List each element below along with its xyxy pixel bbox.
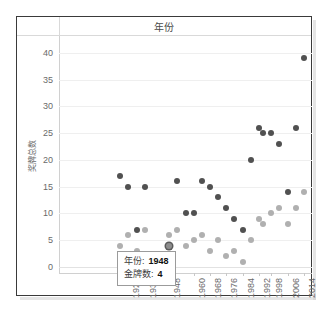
data-point[interactable] xyxy=(293,125,299,131)
data-point[interactable] xyxy=(285,189,291,195)
tooltip-year-value: 1948 xyxy=(149,256,169,266)
data-point[interactable] xyxy=(260,130,266,136)
x-tick-label: 1960 xyxy=(198,278,207,298)
x-tick-mark xyxy=(226,273,227,276)
data-point[interactable] xyxy=(260,221,266,227)
data-point[interactable] xyxy=(183,243,189,249)
x-tick-label: 1998 xyxy=(275,278,284,298)
data-point[interactable] xyxy=(240,259,246,265)
gridline xyxy=(59,240,312,241)
data-point[interactable] xyxy=(199,232,205,238)
gridline xyxy=(59,106,312,107)
widget-shadow-right xyxy=(313,20,316,300)
data-point[interactable] xyxy=(223,205,229,211)
data-point[interactable] xyxy=(231,248,237,254)
data-point[interactable] xyxy=(199,178,205,184)
data-point[interactable] xyxy=(301,189,307,195)
point-tooltip: 年份:1948 金牌数:4 xyxy=(117,251,176,286)
x-axis: 1928193619481960196819761984199219982006… xyxy=(59,273,312,297)
data-point[interactable] xyxy=(142,227,148,233)
plot-area[interactable]: 0510152025303540 xyxy=(59,36,312,273)
data-point[interactable] xyxy=(215,194,221,200)
gridline xyxy=(59,160,312,161)
data-point[interactable] xyxy=(276,141,282,147)
data-point[interactable] xyxy=(117,243,123,249)
tooltip-medal-row: 金牌数:4 xyxy=(124,268,169,281)
x-tick-mark xyxy=(271,273,272,276)
tooltip-medal-value: 4 xyxy=(158,269,163,279)
gridline xyxy=(59,187,312,188)
tooltip-medal-label: 金牌数: xyxy=(124,269,154,279)
data-point[interactable] xyxy=(268,210,274,216)
data-point[interactable] xyxy=(125,184,131,190)
y-tick-label: 30 xyxy=(43,102,53,111)
data-point[interactable] xyxy=(268,130,274,136)
data-point[interactable] xyxy=(174,178,180,184)
data-point[interactable] xyxy=(248,237,254,243)
data-point[interactable] xyxy=(285,221,291,227)
chart-title: 年份 xyxy=(17,19,311,34)
data-point[interactable] xyxy=(174,227,180,233)
data-point[interactable] xyxy=(223,253,229,259)
data-point[interactable] xyxy=(166,232,172,238)
data-point[interactable] xyxy=(293,205,299,211)
data-point[interactable] xyxy=(191,210,197,216)
data-point[interactable] xyxy=(240,227,246,233)
x-tick-mark xyxy=(304,273,305,276)
data-point[interactable] xyxy=(142,184,148,190)
x-tick-mark xyxy=(288,273,289,276)
x-tick-label: 2014 xyxy=(308,278,317,298)
data-point[interactable] xyxy=(125,232,131,238)
tooltip-year-row: 年份:1948 xyxy=(124,255,169,268)
data-point[interactable] xyxy=(207,248,213,254)
y-tick-label: 15 xyxy=(43,182,53,191)
y-tick-label: 40 xyxy=(43,48,53,57)
data-point[interactable] xyxy=(301,55,307,61)
data-point[interactable] xyxy=(191,237,197,243)
x-tick-label: 1992 xyxy=(263,278,272,298)
y-tick-label: 5 xyxy=(48,236,53,245)
x-tick-label: 1984 xyxy=(247,278,256,298)
data-point[interactable] xyxy=(231,216,237,222)
x-tick-label: 1968 xyxy=(214,278,223,298)
data-point[interactable] xyxy=(117,173,123,179)
x-axis-line xyxy=(59,273,312,274)
gridline xyxy=(59,267,312,268)
x-tick-label: 2006 xyxy=(292,278,301,298)
y-tick-label: 35 xyxy=(43,75,53,84)
x-tick-mark xyxy=(194,273,195,276)
data-point[interactable] xyxy=(215,237,221,243)
x-tick-mark xyxy=(243,273,244,276)
data-point[interactable] xyxy=(134,227,140,233)
data-point[interactable] xyxy=(207,184,213,190)
plot-inner: 0510152025303540 xyxy=(59,42,312,267)
y-tick-label: 20 xyxy=(43,155,53,164)
data-point[interactable] xyxy=(183,210,189,216)
y-axis-title: 奖牌总数 xyxy=(26,140,37,172)
chart-widget: 年份 奖牌总数 0510152025303540 192819361948196… xyxy=(16,16,312,296)
x-tick-mark xyxy=(259,273,260,276)
data-point[interactable] xyxy=(248,157,254,163)
y-tick-label: 10 xyxy=(43,209,53,218)
x-tick-mark xyxy=(210,273,211,276)
data-point-selected[interactable] xyxy=(166,243,172,249)
gridline xyxy=(59,80,312,81)
data-point[interactable] xyxy=(276,205,282,211)
chart-header: 年份 xyxy=(17,17,311,36)
tooltip-year-label: 年份: xyxy=(124,256,145,266)
x-tick-label: 1976 xyxy=(230,278,239,298)
gridline xyxy=(59,53,312,54)
y-tick-label: 25 xyxy=(43,129,53,138)
y-tick-label: 0 xyxy=(48,263,53,272)
